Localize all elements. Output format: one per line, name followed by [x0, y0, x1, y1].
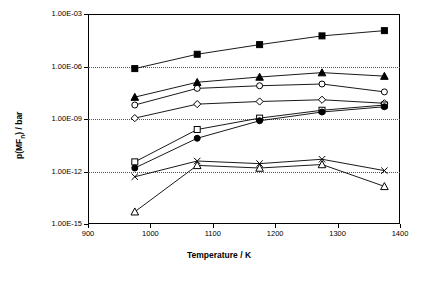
- data-point-filled-circle: [132, 165, 138, 171]
- data-point-open-diamond: [194, 101, 201, 108]
- data-point-open-circle: [194, 85, 200, 91]
- data-point-filled-circle: [257, 118, 263, 124]
- data-point-filled-square: [132, 66, 138, 72]
- series-line: [135, 31, 385, 69]
- data-point-open-diamond: [131, 115, 138, 122]
- series-filled-circle: [132, 104, 388, 171]
- data-point-open-circle: [319, 81, 325, 87]
- series-line: [135, 105, 385, 162]
- data-point-filled-square: [194, 51, 200, 57]
- data-point-cross: [132, 174, 138, 180]
- data-point-open-square: [194, 127, 200, 133]
- data-point-filled-square: [319, 33, 325, 39]
- data-point-filled-circle: [194, 135, 200, 141]
- data-point-open-square: [132, 159, 138, 165]
- data-point-open-diamond: [256, 98, 263, 105]
- data-point-open-circle: [381, 89, 387, 95]
- series-filled-square: [132, 28, 388, 72]
- data-point-filled-square: [257, 42, 263, 48]
- data-point-open-diamond: [318, 96, 325, 103]
- data-point-open-triangle: [381, 183, 389, 190]
- series-open-square: [132, 102, 388, 165]
- chart-figure: p(MFn) / bar 1.00E-151.00E-121.00E-091.0…: [0, 0, 438, 282]
- data-point-open-triangle: [131, 208, 139, 215]
- data-point-open-circle: [257, 83, 263, 89]
- series-open-triangle: [131, 161, 388, 215]
- data-series-layer: [0, 0, 438, 282]
- x-axis-label: Temperature / K: [0, 250, 438, 260]
- data-point-filled-square: [381, 28, 387, 34]
- data-point-open-circle: [132, 102, 138, 108]
- data-point-filled-circle: [381, 104, 387, 110]
- data-point-filled-circle: [319, 109, 325, 115]
